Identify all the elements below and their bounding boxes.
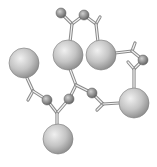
molecule-diagram	[0, 0, 157, 167]
molecule-canvas	[0, 0, 157, 167]
small-atom	[138, 55, 148, 65]
small-atom	[79, 10, 89, 20]
bond-highlight	[70, 69, 76, 85]
small-atom	[64, 94, 74, 104]
small-atom	[56, 8, 66, 18]
large-atom	[119, 88, 149, 118]
large-atom	[53, 40, 83, 70]
large-atom	[43, 124, 73, 154]
large-atom	[9, 48, 39, 78]
large-atom	[86, 40, 116, 70]
small-atom	[87, 88, 97, 98]
bond-highlight	[27, 78, 33, 91]
small-atom	[42, 95, 52, 105]
